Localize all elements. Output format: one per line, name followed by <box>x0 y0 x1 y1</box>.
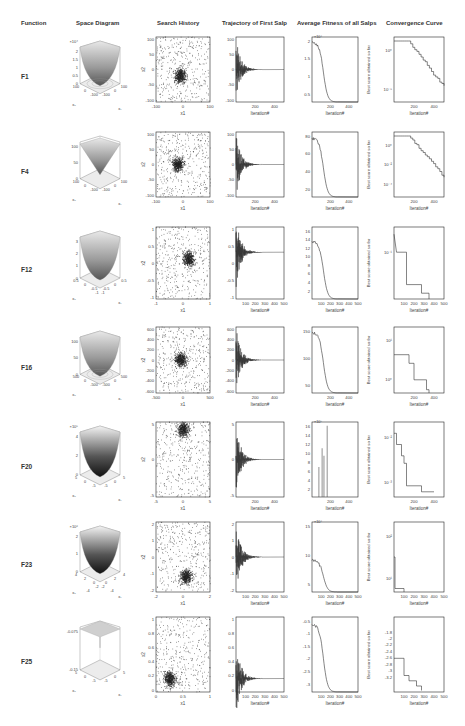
svg-text:2: 2 <box>308 487 311 492</box>
svg-text:15: 15 <box>305 524 310 529</box>
svg-text:200: 200 <box>252 499 260 504</box>
svg-text:1: 1 <box>76 263 79 268</box>
svg-text:1: 1 <box>232 227 235 232</box>
svg-text:0: 0 <box>232 555 235 560</box>
svg-text:0: 0 <box>182 594 185 599</box>
svg-text:300: 300 <box>421 594 429 599</box>
svg-text:2: 2 <box>308 39 311 44</box>
svg-text:1: 1 <box>308 74 311 79</box>
space-diagram: 21.510.50×10⁴1000-1001000-100x₂x₁ <box>60 31 140 124</box>
svg-text:0: 0 <box>84 89 86 93</box>
svg-text:-200: -200 <box>146 368 155 373</box>
svg-text:0: 0 <box>84 675 86 679</box>
svg-text:Best score obtained so far: Best score obtained so far <box>366 435 371 484</box>
svg-text:100: 100 <box>121 85 127 89</box>
svg-text:400: 400 <box>271 104 279 109</box>
svg-text:x₁: x₁ <box>118 692 122 697</box>
svg-text:400: 400 <box>271 594 279 599</box>
svg-text:-1: -1 <box>150 571 154 576</box>
svg-text:5: 5 <box>75 671 77 675</box>
svg-text:0.5: 0.5 <box>180 694 186 699</box>
svg-text:Iteration#: Iteration# <box>326 111 345 116</box>
svg-text:-2.2: -2.2 <box>385 642 393 647</box>
svg-text:100: 100 <box>227 132 235 137</box>
svg-text:16: 16 <box>305 424 310 429</box>
svg-text:200: 200 <box>252 199 260 204</box>
svg-text:-400: -400 <box>226 378 235 383</box>
svg-text:0.5: 0.5 <box>304 92 310 97</box>
svg-text:-5: -5 <box>230 493 234 498</box>
svg-text:0: 0 <box>114 480 116 484</box>
svg-text:100: 100 <box>147 37 155 42</box>
svg-text:10: 10 <box>305 553 310 558</box>
svg-text:1: 1 <box>232 617 235 622</box>
function-label: F12 <box>21 266 32 273</box>
svg-text:10⁻⁴: 10⁻⁴ <box>384 182 393 187</box>
svg-text:400: 400 <box>431 104 439 109</box>
trajectory-first-salp: 100500-50-100200400Iteration# <box>218 130 290 215</box>
svg-text:5: 5 <box>75 476 77 480</box>
svg-text:x₂: x₂ <box>72 296 76 301</box>
space-diagram: 1005005000-5005000-500x₂x₁ <box>60 321 140 415</box>
convergence-curve: 10⁰10⁻²10⁻⁴200400Iteration#Best score ob… <box>364 130 464 215</box>
svg-text:x₂: x₂ <box>72 102 76 107</box>
function-label: F25 <box>21 658 32 665</box>
svg-text:0.2: 0.2 <box>228 673 234 678</box>
svg-text:200: 200 <box>411 199 419 204</box>
svg-text:100: 100 <box>121 180 127 184</box>
svg-text:-200: -200 <box>226 368 235 373</box>
svg-text:0.5: 0.5 <box>121 279 126 283</box>
svg-text:40: 40 <box>305 169 310 174</box>
svg-text:0: 0 <box>114 184 116 188</box>
svg-text:100: 100 <box>401 694 409 699</box>
header-space-diagram: Space Diagram <box>76 20 119 26</box>
svg-text:-50: -50 <box>228 177 235 182</box>
svg-text:Iteration#: Iteration# <box>410 206 429 211</box>
svg-text:Iteration#: Iteration# <box>251 506 270 511</box>
space-diagram: -0.075-0.1550-550-5x₂x₁ <box>60 611 140 714</box>
svg-text:400: 400 <box>431 199 439 204</box>
svg-text:10⁻³: 10⁻³ <box>384 480 393 485</box>
svg-text:400: 400 <box>431 499 439 504</box>
trajectory-first-salp: 6004002000-200-400-600200400Iteration# <box>218 325 290 411</box>
svg-text:10: 10 <box>305 451 310 456</box>
svg-text:-600: -600 <box>226 389 235 394</box>
svg-text:-5: -5 <box>150 493 154 498</box>
svg-text:Iteration#: Iteration# <box>326 506 345 511</box>
svg-text:-5: -5 <box>154 499 158 504</box>
svg-text:Iteration#: Iteration# <box>410 601 429 606</box>
search-history: 10.50-0.5-1-101x1x2 <box>140 225 215 317</box>
svg-text:x₁: x₁ <box>118 201 122 206</box>
svg-text:Iteration#: Iteration# <box>410 506 429 511</box>
svg-text:-0.5: -0.5 <box>303 619 311 624</box>
svg-text:0.4: 0.4 <box>228 659 234 664</box>
svg-text:400: 400 <box>227 337 235 342</box>
convergence-curve: 10⁻²10⁻³200400Iteration#Best score obtai… <box>364 420 464 515</box>
svg-text:10⁻²: 10⁻² <box>384 435 393 440</box>
svg-text:0: 0 <box>152 67 155 72</box>
function-label: F4 <box>21 168 29 175</box>
svg-text:20: 20 <box>305 187 310 192</box>
svg-text:Iteration#: Iteration# <box>326 601 345 606</box>
svg-text:-100: -100 <box>146 98 155 103</box>
svg-text:500: 500 <box>281 594 289 599</box>
svg-text:2: 2 <box>152 522 155 527</box>
average-fitness: ×10⁴21.510.5200400Iteration# <box>292 35 364 120</box>
svg-text:-2: -2 <box>101 585 104 589</box>
svg-text:0.6: 0.6 <box>228 645 234 650</box>
svg-text:-100: -100 <box>102 188 110 192</box>
svg-text:-5: -5 <box>104 679 107 683</box>
svg-text:-0.5: -0.5 <box>147 278 155 283</box>
svg-text:Best score obtained so far: Best score obtained so far <box>366 532 371 581</box>
svg-text:-4: -4 <box>110 589 113 593</box>
average-fitness: ×10⁵161412108642200400Iteration# <box>292 420 364 515</box>
svg-text:2: 2 <box>76 49 79 54</box>
svg-text:6: 6 <box>308 469 311 474</box>
svg-text:2: 2 <box>76 453 79 458</box>
space-diagram: 420×10⁵50-550-5x₂x₁ <box>60 416 140 519</box>
svg-text:200: 200 <box>327 594 335 599</box>
svg-text:0.8: 0.8 <box>148 631 154 636</box>
svg-text:200: 200 <box>327 694 335 699</box>
svg-text:x1: x1 <box>181 506 186 511</box>
svg-text:Iteration#: Iteration# <box>326 402 345 407</box>
